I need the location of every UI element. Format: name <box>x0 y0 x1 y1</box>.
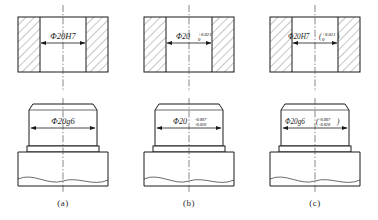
shaft-lower-deviation-b: -0.020 <box>195 122 207 127</box>
panel-c: Φ20H7 ( +0.021 0 ) Φ20g6 <box>252 0 378 220</box>
panel-b: Φ20 +0.021 0 Φ20 -0.007 <box>126 0 252 220</box>
hole-dimension-label-b: Φ20 <box>176 32 190 41</box>
hole-paren-close-c: ) <box>336 33 340 41</box>
panel-caption-c: (c) <box>252 198 378 208</box>
shaft-dimension-label-c: Φ20g6 <box>285 118 305 126</box>
panel-caption-b: (b) <box>126 198 252 208</box>
panel-caption-a: (a) <box>0 198 126 208</box>
shaft-lower-deviation-c: -0.020 <box>319 122 331 127</box>
panel-a: Φ20H7 Φ20g6 (a) <box>0 0 126 220</box>
drawing-sheet: Φ20H7 Φ20g6 (a) <box>0 0 378 220</box>
panel-a-graphics: Φ20H7 Φ20g6 <box>0 0 126 220</box>
panel-b-graphics: Φ20 +0.021 0 Φ20 -0.007 <box>126 0 252 220</box>
panel-c-graphics: Φ20H7 ( +0.021 0 ) Φ20g6 <box>252 0 378 220</box>
shaft-paren-close-c: ) <box>336 118 340 126</box>
shaft-dimension-label-a: Φ20g6 <box>51 116 75 126</box>
hole-dimension-label-a: Φ20H7 <box>50 31 76 41</box>
hole-dimension-label-c: Φ20H7 <box>288 33 310 41</box>
shaft-dimension-label-b: Φ20 <box>173 117 187 126</box>
